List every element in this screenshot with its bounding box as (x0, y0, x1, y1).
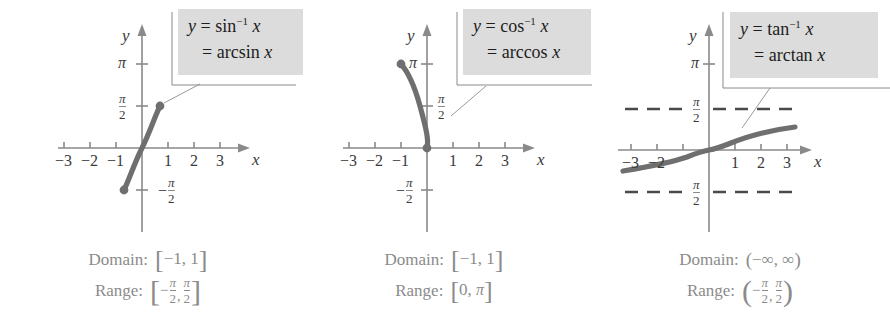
x-tick-label-neg2-arcsin: −2 (81, 152, 98, 170)
x-tick-label-1-arccos: 1 (449, 152, 457, 170)
domain-row-arctan: Domain: (−∞, ∞) (592, 244, 888, 275)
endpoint-upper-arccos (397, 60, 406, 69)
x-tick-label-neg1-arcsin: −1 (107, 152, 124, 170)
footer-arccos: Domain: [−1, 1] Range: [0, π] (296, 244, 592, 306)
y-tick-label-pi-arctan: π (691, 54, 699, 72)
y-tick-label-neg-pi-over-2-arctan: π2 (689, 178, 704, 207)
range-row-arctan: Range: ( −π2, π2 ) (592, 275, 888, 306)
domain-label-arcsin: Domain: (89, 250, 156, 270)
x-tick-label-neg2-arccos: −2 (366, 152, 383, 170)
x-axis-label-arccos: x (537, 150, 545, 170)
y-axis-arcsin (138, 24, 147, 232)
x-tick-label-3-arcsin: 3 (216, 152, 224, 170)
endpoint-upper-arcsin (156, 102, 165, 111)
range-value-arcsin: [ −π2, π2 ] (150, 276, 201, 305)
leader-line-arcsin (164, 84, 200, 103)
callout-line1-arccos: y = cos−1 x (473, 14, 581, 40)
domain-row-arccos: Domain: [−1, 1] (296, 244, 592, 275)
domain-row-arcsin: Domain: [−1, 1] (0, 244, 296, 275)
callout-line2-arccos: = arccos x (473, 40, 581, 66)
callout-arctan: y = tan−1 x = arctan x (730, 12, 878, 78)
endpoint-lower-arcsin (120, 186, 129, 195)
x-axis-label-arctan: x (814, 152, 822, 172)
domain-value-arctan: (−∞, ∞) (746, 249, 801, 271)
x-tick-label-neg1-arccos: −1 (392, 152, 409, 170)
y-axis-label-arccos: y (407, 26, 415, 46)
callout-line1-arcsin: y = sin−1 x (188, 14, 293, 40)
y-axis-label-arcsin: y (122, 26, 130, 46)
x-tick-label-neg2-arctan: −2 (648, 154, 665, 172)
range-label-arctan: Range: (687, 281, 742, 301)
x-tick-label-1-arcsin: 1 (164, 152, 172, 170)
callout-line2-arcsin: = arcsin x (188, 40, 293, 66)
plot-arctan: y x −3 −2 1 2 3 π π2 π2 y = tan−1 x = ar… (592, 0, 888, 240)
x-tick-label-3-arccos: 3 (501, 152, 509, 170)
x-tick-label-2-arccos: 2 (475, 152, 483, 170)
x-tick-label-neg3-arcsin: −3 (55, 152, 72, 170)
range-row-arccos: Range: [0, π] (296, 275, 592, 306)
panel-arctan: y x −3 −2 1 2 3 π π2 π2 y = tan−1 x = ar… (592, 0, 888, 332)
range-value-arctan: ( −π2, π2 ) (742, 276, 793, 305)
footer-arcsin: Domain: [−1, 1] Range: [ −π2, π2 ] (0, 244, 296, 306)
x-tick-label-2-arcsin: 2 (190, 152, 198, 170)
y-tick-label-pi-arcsin: π (118, 54, 126, 72)
x-tick-label-3-arctan: 3 (783, 154, 791, 172)
panel-arcsin: y x −3 −2 −1 1 2 3 π π2 −π2 y = sin−1 x … (0, 0, 296, 332)
x-tick-label-1-arctan: 1 (731, 154, 739, 172)
y-axis-arctan (705, 24, 714, 232)
domain-label-arctan: Domain: (679, 250, 746, 270)
plot-arcsin: y x −3 −2 −1 1 2 3 π π2 −π2 y = sin−1 x … (0, 0, 296, 240)
y-tick-label-neg-pi-over-2-arcsin: −π2 (158, 176, 176, 205)
y-tick-label-pi-arccos: π (409, 54, 417, 72)
y-axis-label-arctan: y (689, 26, 697, 46)
footer-arctan: Domain: (−∞, ∞) Range: ( −π2, π2 ) (592, 244, 888, 306)
callout-line1-arctan: y = tan−1 x (740, 17, 868, 43)
y-tick-label-pi-over-2-arccos: π2 (437, 92, 446, 121)
x-axis-label-arcsin: x (252, 150, 260, 170)
leader-line-arccos (451, 86, 486, 116)
y-tick-label-neg-pi-over-2-arccos: −π2 (396, 176, 414, 205)
callout-arcsin: y = sin−1 x = arcsin x (178, 9, 303, 75)
panel-arccos: y x −3 −2 −1 1 2 3 π π2 −π2 y = cos−1 x … (296, 0, 592, 332)
domain-label-arccos: Domain: (385, 250, 452, 270)
domain-value-arccos: [−1, 1] (451, 248, 503, 271)
callout-arccos: y = cos−1 x = arccos x (463, 9, 591, 75)
range-label-arccos: Range: (395, 281, 450, 301)
y-tick-label-pi-over-2-arcsin: π2 (118, 92, 127, 121)
callout-line2-arctan: = arctan x (740, 43, 868, 69)
x-tick-label-neg3-arccos: −3 (340, 152, 357, 170)
endpoint-lower-arccos (423, 144, 432, 153)
range-value-arccos: [0, π] (450, 279, 492, 302)
x-tick-label-neg3-arctan: −3 (622, 154, 639, 172)
domain-value-arcsin: [−1, 1] (155, 248, 207, 271)
plot-arccos: y x −3 −2 −1 1 2 3 π π2 −π2 y = cos−1 x … (296, 0, 592, 240)
range-label-arcsin: Range: (95, 281, 150, 301)
x-tick-label-2-arctan: 2 (757, 154, 765, 172)
range-row-arcsin: Range: [ −π2, π2 ] (0, 275, 296, 306)
y-tick-label-pi-over-2-arctan: π2 (689, 95, 704, 124)
